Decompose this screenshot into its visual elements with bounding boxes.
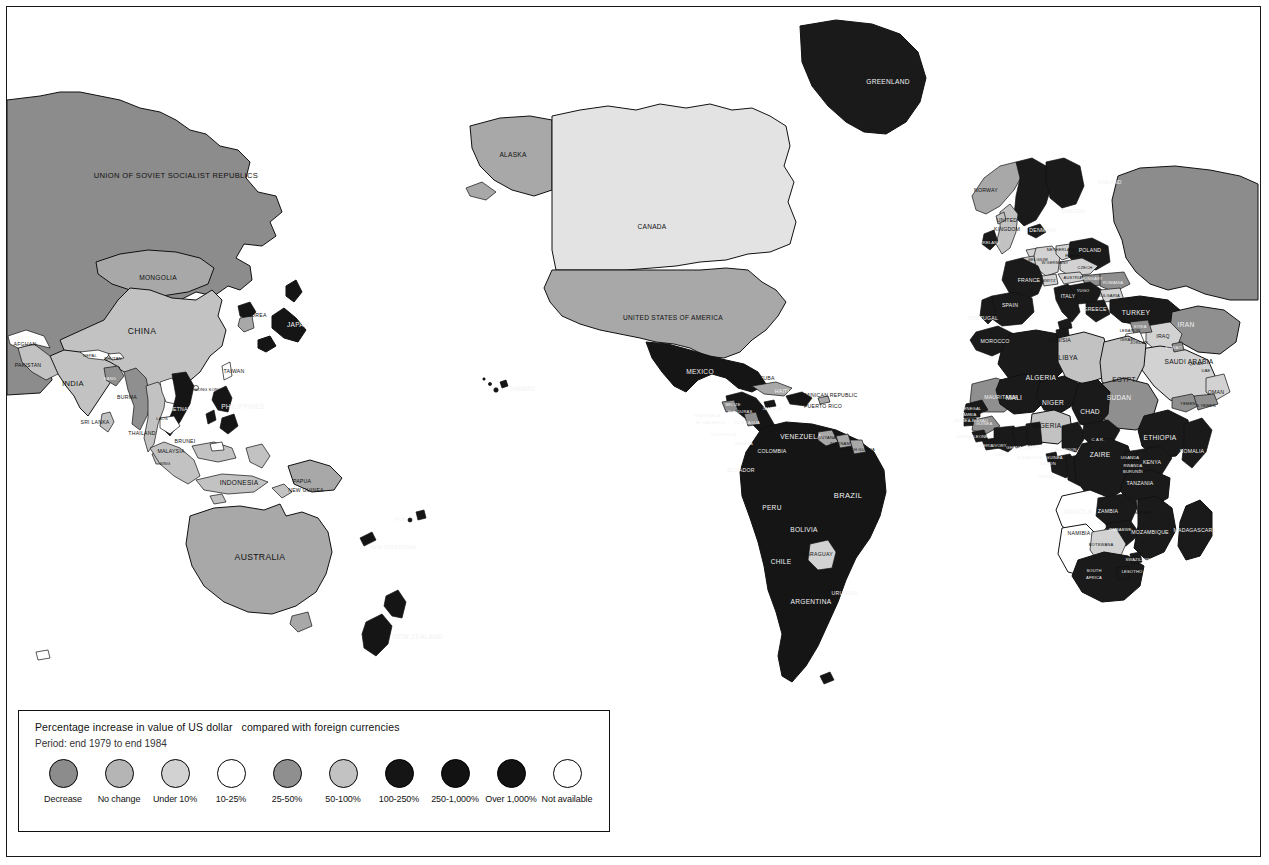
legend-item-label: No change: [98, 794, 141, 804]
legend-item[interactable]: Not available: [539, 759, 595, 804]
legend-swatch-dot: [441, 759, 470, 788]
region-alaska[interactable]: [466, 116, 552, 200]
legend-item-label: Over 1,000%: [485, 794, 537, 804]
legend-swatch-dot: [273, 759, 302, 788]
legend-item-label: Not available: [542, 794, 593, 804]
region-gambia[interactable]: [964, 412, 980, 418]
region-switzerland[interactable]: [1042, 274, 1058, 286]
map-page: UNION OF SOVIET SOCIALIST REPUBLICSMONGO…: [0, 0, 1269, 865]
legend-item[interactable]: 50-100%: [315, 759, 371, 804]
legend-swatch-dot: [329, 759, 358, 788]
legend-swatch-row: DecreaseNo changeUnder 10%10-25%25-50%50…: [35, 759, 593, 804]
legend-swatch-dot: [49, 759, 78, 788]
legend-item[interactable]: 10-25%: [203, 759, 259, 804]
region-kuwait[interactable]: [1172, 342, 1184, 352]
region-lesotho[interactable]: [1116, 566, 1130, 580]
region-syria[interactable]: [1130, 320, 1152, 334]
legend-period: Period: end 1979 to end 1984: [35, 738, 593, 750]
legend-item[interactable]: 100-250%: [371, 759, 427, 804]
legend-swatch-dot: [553, 759, 582, 788]
legend-swatch-dot: [217, 759, 246, 788]
legend-item-label: 250-1,000%: [431, 794, 479, 804]
region-canada[interactable]: [552, 104, 796, 270]
legend-item[interactable]: 25-50%: [259, 759, 315, 804]
map-legend: Percentage increase in value of US dolla…: [18, 710, 610, 832]
legend-swatch-dot: [161, 759, 190, 788]
legend-item[interactable]: No change: [91, 759, 147, 804]
legend-item[interactable]: 250-1,000%: [427, 759, 483, 804]
region-swaziland[interactable]: [1130, 552, 1142, 564]
region-hong-kong[interactable]: [194, 386, 199, 391]
legend-title: Percentage increase in value of US dolla…: [35, 721, 593, 734]
legend-item[interactable]: Under 10%: [147, 759, 203, 804]
island-marker: [36, 650, 50, 660]
legend-item[interactable]: Over 1,000%: [483, 759, 539, 804]
legend-item-label: 25-50%: [272, 794, 302, 804]
legend-item[interactable]: Decrease: [35, 759, 91, 804]
legend-item-label: Decrease: [44, 794, 82, 804]
legend-item-label: 50-100%: [325, 794, 360, 804]
legend-swatch-dot: [385, 759, 414, 788]
region-togo-benin[interactable]: [1026, 422, 1042, 446]
legend-item-label: 10-25%: [216, 794, 246, 804]
legend-item-label: Under 10%: [153, 794, 197, 804]
legend-swatch-dot: [497, 759, 526, 788]
legend-swatch-dot: [105, 759, 134, 788]
region-brunei[interactable]: [210, 442, 224, 451]
legend-item-label: 100-250%: [379, 794, 419, 804]
